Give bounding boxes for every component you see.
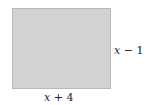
- bottom-expression: + 4: [50, 91, 73, 104]
- side-length-label: x − 1: [114, 45, 143, 56]
- bottom-length-label: x + 4: [44, 92, 73, 103]
- rectangle-shape: [12, 8, 111, 89]
- side-expression: − 1: [120, 44, 143, 57]
